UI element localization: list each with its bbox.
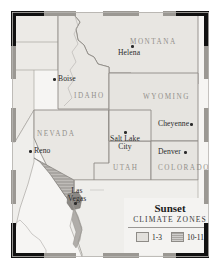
city-label-helena: Helena [118,48,140,57]
city-label-las-vegas-line2: Vegas [68,194,87,203]
city-dot-boise [53,78,56,81]
map-plate: MONTANA IDAHO WYOMING NEVADA UTAH COLORA… [12,12,209,257]
legend-label-zone-10-11: 10-11 [187,233,204,242]
city-label-denver: Denver [158,147,181,156]
state-label-utah: UTAH [113,164,138,172]
state-label-colorado: COLORADO [158,164,209,172]
city-dot-las-vegas [74,202,77,205]
legend-item-zone-10-11: 10-11 [171,232,204,242]
city-label-salt-lake-city-line2: City [118,142,131,151]
city-dot-salt-lake-city [124,131,127,134]
legend-label-zone-1-3: 1-3 [152,233,162,242]
city-label-salt-lake-city: Salt LakeCity [107,135,143,152]
city-dot-reno [29,150,32,153]
city-label-las-vegas: LasVegas [62,187,92,204]
city-dot-denver [184,151,187,154]
legend-subtitle: CLIMATE ZONES [124,215,209,224]
state-label-wyoming: WYOMING [143,93,190,101]
city-label-reno: Reno [34,146,50,155]
legend-box: Sunset CLIMATE ZONES 1-3 10-11 [124,198,209,255]
city-dot-helena [131,45,134,48]
legend-swatch-zone-10-11 [171,232,184,242]
legend-items: 1-3 10-11 [124,232,209,242]
city-label-cheyenne: Cheyenne [158,119,189,128]
legend-item-zone-1-3: 1-3 [136,232,162,242]
state-label-nevada: NEVADA [37,130,75,138]
state-label-montana: MONTANA [130,38,177,46]
sunset-climate-zones-map: MONTANA IDAHO WYOMING NEVADA UTAH COLORA… [0,0,221,269]
state-label-idaho: IDAHO [74,92,105,100]
legend-swatch-zone-1-3 [136,232,149,242]
legend-divider [128,227,209,228]
city-dot-cheyenne [190,123,193,126]
legend-title: Sunset [124,202,209,214]
city-label-boise: Boise [58,74,76,83]
